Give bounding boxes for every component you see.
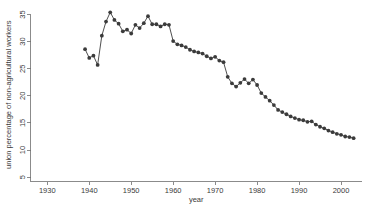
data-point (121, 29, 125, 33)
x-tick-label: 1930 (39, 186, 56, 195)
series-markers (83, 10, 355, 140)
data-point (314, 123, 318, 127)
data-point (92, 54, 96, 58)
data-point (322, 126, 326, 130)
data-point (339, 133, 343, 137)
data-point (108, 10, 112, 14)
x-tick-label: 1970 (207, 186, 224, 195)
data-point (134, 23, 138, 27)
data-point (96, 63, 100, 67)
data-point (209, 57, 213, 61)
data-point (285, 112, 289, 116)
y-tick-label: 15 (18, 119, 27, 127)
data-point (192, 49, 196, 53)
data-point (234, 85, 238, 89)
data-point (142, 21, 146, 25)
data-point (146, 14, 150, 18)
data-point (184, 45, 188, 49)
data-point (264, 95, 268, 99)
series-line-path (85, 12, 354, 138)
x-axis-ticks: 19301940195019601970198019902000 (39, 182, 349, 195)
axes (31, 15, 363, 182)
y-tick-label: 10 (18, 146, 27, 154)
y-tick-label: 5 (18, 175, 27, 179)
x-tick-label: 1950 (123, 186, 140, 195)
data-point (318, 125, 322, 129)
data-point (226, 75, 230, 79)
data-point (87, 56, 91, 60)
data-point (171, 39, 175, 43)
data-point (159, 25, 163, 29)
x-tick-label: 1940 (81, 186, 98, 195)
data-point (117, 22, 121, 26)
x-tick-label: 1990 (291, 186, 308, 195)
data-point (272, 103, 276, 107)
data-point (150, 22, 154, 26)
x-tick-label: 1980 (249, 186, 266, 195)
data-point (331, 130, 335, 134)
data-point (113, 18, 117, 22)
data-point (100, 34, 104, 38)
data-point (343, 135, 347, 139)
y-tick-label: 25 (18, 65, 27, 73)
chart-container: 5101520253035 19301940195019601970198019… (0, 0, 366, 210)
data-point (230, 81, 234, 85)
data-point (167, 23, 171, 27)
data-point (188, 48, 192, 52)
data-point (255, 83, 259, 87)
data-point (104, 20, 108, 24)
data-point (335, 132, 339, 136)
data-point (306, 120, 310, 124)
x-tick-label: 2000 (333, 186, 350, 195)
data-point (276, 108, 280, 112)
data-point (213, 55, 217, 59)
data-point (310, 119, 314, 123)
data-point (129, 32, 133, 36)
y-tick-label: 35 (18, 10, 27, 18)
data-point (251, 78, 255, 82)
x-tick-label: 1960 (165, 186, 182, 195)
data-point (163, 22, 167, 26)
data-point (217, 59, 221, 63)
y-tick-label: 30 (18, 37, 27, 45)
data-point (180, 44, 184, 48)
data-point (138, 26, 142, 30)
data-point (348, 135, 352, 139)
data-point (205, 54, 209, 58)
data-point (196, 51, 200, 55)
data-point (125, 28, 129, 32)
data-point (259, 91, 263, 95)
data-point (289, 115, 293, 119)
data-point (268, 99, 272, 103)
y-axis-ticks: 5101520253035 (18, 10, 30, 179)
x-axis-title: year (189, 195, 204, 204)
data-point (352, 136, 356, 140)
data-point (247, 81, 251, 85)
data-point (154, 22, 158, 26)
y-axis-title: union percentage of non-agricultural wor… (4, 20, 13, 169)
data-point (243, 77, 247, 81)
data-point (175, 42, 179, 46)
data-point (297, 118, 301, 122)
data-point (201, 52, 205, 56)
y-tick-label: 20 (18, 92, 27, 100)
data-point (238, 81, 242, 85)
data-point (83, 47, 87, 51)
data-point (327, 129, 331, 133)
data-point (280, 110, 284, 114)
data-point (293, 116, 297, 120)
line-chart: 5101520253035 19301940195019601970198019… (0, 0, 366, 210)
data-point (222, 60, 226, 64)
data-point (301, 118, 305, 122)
data-series (83, 10, 355, 140)
